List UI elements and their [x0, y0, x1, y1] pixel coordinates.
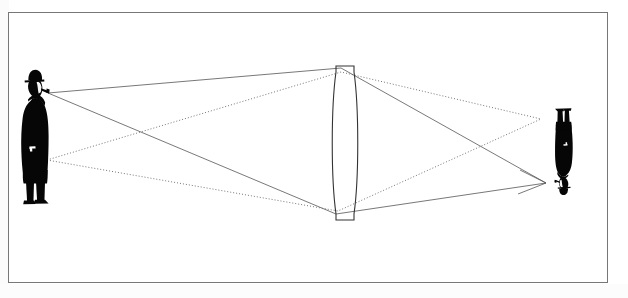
image-man-trouser-left: [564, 109, 569, 123]
image-man-trouser-right: [557, 109, 563, 122]
image-man-shoe-rear: [564, 108, 572, 110]
man-trouser-right: [36, 182, 45, 203]
man-coat: [21, 98, 48, 183]
image-man-coat-hem: [556, 122, 572, 131]
image-man-coat: [555, 122, 573, 177]
man-shoe-rear: [23, 201, 35, 205]
page-background: [0, 0, 628, 298]
man-trouser-left: [26, 182, 34, 203]
scan-tint-bottom: [0, 284, 628, 298]
optics-ray-diagram: Image formation by a converging (biconve…: [0, 0, 628, 298]
man-coat-hem: [23, 170, 48, 184]
diagram-canvas: Image formation by a converging (biconve…: [0, 0, 628, 298]
scan-tint-left: [0, 0, 9, 298]
